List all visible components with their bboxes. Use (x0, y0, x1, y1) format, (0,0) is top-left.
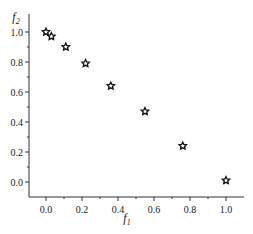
y-tick-label: 1.0 (11, 27, 24, 38)
data-point-star (82, 60, 89, 67)
y-tick-label: 0.2 (11, 147, 24, 158)
y-tick-label: 0.0 (11, 177, 24, 188)
y-axis-label: f2 (12, 10, 19, 26)
y-tick-label: 0.8 (11, 57, 24, 68)
x-tick-label: 1.0 (220, 204, 233, 215)
data-points (42, 28, 229, 183)
data-point-star (48, 33, 55, 40)
axes: 0.00.20.40.60.81.00.00.20.40.60.81.0 (11, 14, 245, 215)
data-point-star (42, 28, 49, 35)
data-point-star (141, 108, 148, 115)
data-point-star (179, 142, 186, 149)
y-tick-label: 0.4 (11, 117, 24, 128)
data-point-star (222, 177, 229, 184)
data-point-star (62, 43, 69, 50)
x-tick-label: 0.0 (40, 204, 53, 215)
x-tick-label: 0.2 (76, 204, 89, 215)
scatter-chart: 0.00.20.40.60.81.00.00.20.40.60.81.0 f1 … (0, 0, 253, 234)
y-tick-label: 0.6 (11, 87, 24, 98)
x-axis-label: f1 (123, 211, 130, 227)
data-point-star (107, 82, 114, 89)
x-tick-label: 0.8 (184, 204, 197, 215)
x-tick-label: 0.6 (148, 204, 161, 215)
